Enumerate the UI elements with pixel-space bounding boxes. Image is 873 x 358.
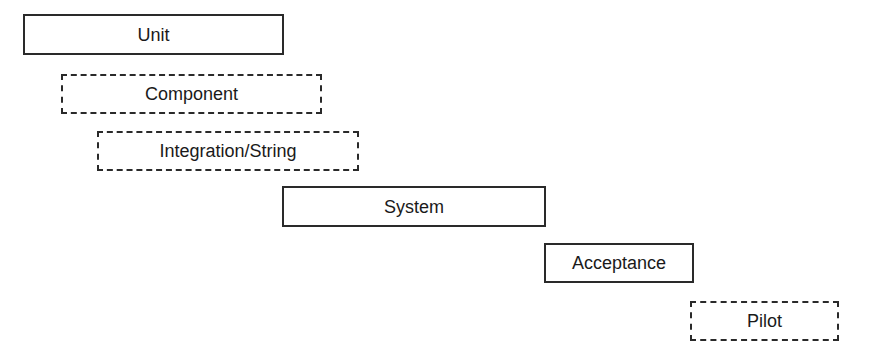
stage-label: System bbox=[384, 198, 444, 216]
stage-unit: Unit bbox=[23, 14, 284, 55]
stage-label: Unit bbox=[137, 26, 169, 44]
stage-label: Acceptance bbox=[572, 254, 666, 272]
stage-label: Pilot bbox=[747, 312, 782, 330]
stage-label: Integration/String bbox=[159, 142, 296, 160]
stage-acceptance: Acceptance bbox=[544, 243, 694, 283]
stage-system: System bbox=[282, 186, 546, 227]
stage-integration-string: Integration/String bbox=[97, 131, 359, 171]
stage-pilot: Pilot bbox=[690, 301, 839, 341]
stage-component: Component bbox=[61, 74, 322, 114]
stage-label: Component bbox=[145, 85, 238, 103]
